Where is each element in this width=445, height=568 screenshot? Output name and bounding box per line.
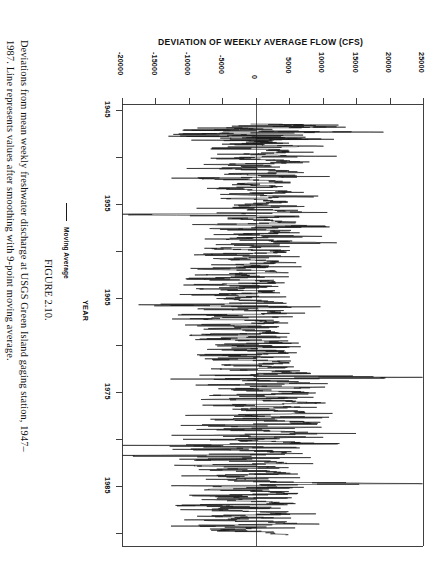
figure-caption-line-1: Deviations from mean weekly freshwater d… (19, 40, 30, 452)
value-tick-label-0: -20000 (116, 52, 125, 75)
time-axis-ticks (116, 110, 122, 533)
chart-canvas (0, 0, 445, 568)
legend-line-swatch (66, 203, 67, 221)
time-tick-label-1955: 1955 (103, 195, 112, 212)
time-tick-label-1965: 1965 (103, 289, 112, 306)
value-tick-label-8: 20000 (384, 52, 393, 73)
value-tick-label-3: -5000 (217, 55, 226, 74)
value-tick-label-6: 10000 (317, 52, 326, 73)
time-tick-label-1975: 1975 (103, 383, 112, 400)
figure-number: FIGURE 2.10. (43, 259, 54, 321)
figure-caption-line-2: 1987. Line represents values after smoot… (5, 40, 16, 361)
value-tick-label-2: -10000 (183, 52, 192, 75)
value-tick-label-9: 25000 (417, 52, 426, 73)
value-tick-label-1: -15000 (150, 52, 159, 75)
value-axis-title: DEVIATION OF WEEKLY AVERAGE FLOW (CFS) (158, 37, 363, 47)
value-tick-label-7: 15000 (351, 52, 360, 73)
value-axis-ticks (122, 98, 423, 104)
time-tick-label-1985: 1985 (103, 477, 112, 494)
time-axis-title: YEAR (81, 300, 90, 321)
legend-label-moving-average: Moving Average (63, 227, 70, 279)
series-line-moving-average (123, 124, 423, 535)
time-tick-label-1945: 1945 (103, 101, 112, 118)
plot-frame (122, 104, 423, 546)
value-tick-label-4: 0 (250, 75, 259, 79)
value-tick-label-5: 5000 (284, 57, 293, 74)
